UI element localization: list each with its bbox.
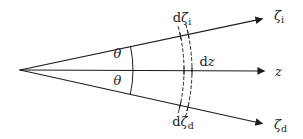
label-theta-upper: θ <box>114 46 122 61</box>
label-theta-lower: θ <box>114 73 122 88</box>
figure-background <box>0 0 303 139</box>
label-z-axis: z <box>274 64 282 79</box>
ray-angle-diagram: dζi dz dζd ζi z ζd θ θ <box>0 0 303 139</box>
label-dz: dz <box>199 54 214 69</box>
